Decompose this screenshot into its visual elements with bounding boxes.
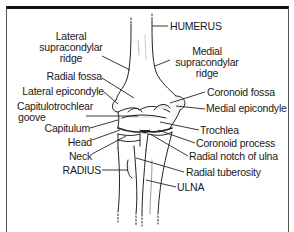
label-humerus: HUMERUS xyxy=(170,21,222,32)
label-medial-supracondylar-ridge: Medial supracondylar ridge xyxy=(172,46,242,79)
label-lateral-epicondyle: Lateral epicondyle xyxy=(6,86,104,97)
label-coronoid-process: Coronoid process xyxy=(196,138,275,149)
label-medial-epicondyle: Medial epicondyle xyxy=(206,103,287,114)
label-line: ridge xyxy=(172,68,242,79)
label-ulna: ULNA xyxy=(177,182,204,193)
label-capitulum: Capitulum xyxy=(20,123,90,134)
label-head: Head xyxy=(40,137,92,148)
label-trochlea: Trochlea xyxy=(200,125,239,136)
label-lateral-supracondylar-ridge: Lateral supracondylar ridge xyxy=(36,31,106,64)
label-radius: RADIUS xyxy=(40,165,101,176)
label-coronoid-fossa: Coronoid fossa xyxy=(207,87,275,98)
label-neck: Neck xyxy=(40,151,92,162)
label-radial-notch-of-ulna: Radial notch of ulna xyxy=(189,151,278,162)
label-line: ridge xyxy=(36,53,106,64)
label-capitulotrochlear-groove: Capitulotrochlear goove xyxy=(10,101,100,123)
label-radial-fossa: Radial fossa xyxy=(30,71,102,82)
label-radial-tuberosity: Radial tuberosity xyxy=(186,167,261,178)
